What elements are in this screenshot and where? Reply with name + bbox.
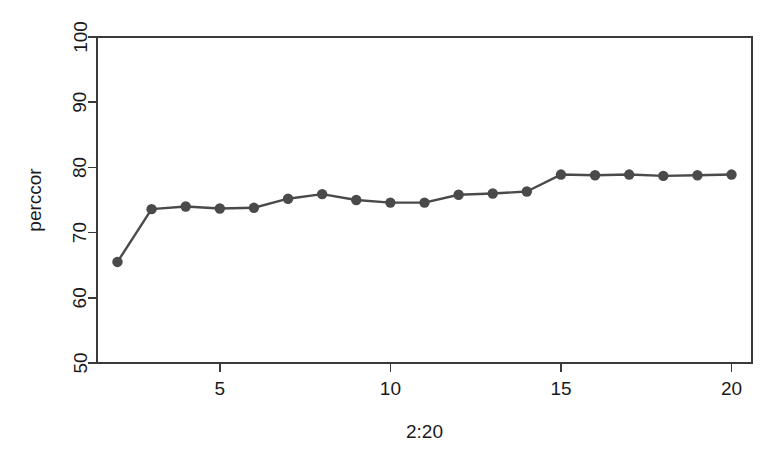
y-tick-label-80: 80 bbox=[70, 157, 91, 178]
data-point bbox=[112, 257, 122, 267]
data-points-perccor bbox=[112, 169, 736, 267]
data-point bbox=[351, 195, 361, 205]
chart-container: 5060708090100 5101520 perccor 2:20 bbox=[0, 0, 780, 464]
data-point bbox=[453, 190, 463, 200]
x-tick-label-10: 10 bbox=[380, 378, 401, 399]
data-point bbox=[181, 201, 191, 211]
data-point bbox=[658, 171, 668, 181]
x-axis-title: 2:20 bbox=[406, 421, 443, 442]
data-point bbox=[317, 189, 327, 199]
y-tick-label-70: 70 bbox=[70, 222, 91, 243]
line-chart: 5060708090100 5101520 perccor 2:20 bbox=[0, 0, 780, 464]
data-point bbox=[419, 197, 429, 207]
data-point bbox=[726, 169, 736, 179]
x-tick-label-15: 15 bbox=[550, 378, 571, 399]
x-tick-label-5: 5 bbox=[215, 378, 226, 399]
data-point bbox=[522, 186, 532, 196]
y-tick-label-90: 90 bbox=[70, 92, 91, 113]
data-point bbox=[146, 204, 156, 214]
data-point bbox=[283, 194, 293, 204]
data-point bbox=[556, 169, 566, 179]
data-line-perccor bbox=[117, 175, 731, 262]
data-point bbox=[488, 188, 498, 198]
x-axis-ticks bbox=[220, 363, 732, 372]
y-axis-ticks bbox=[88, 37, 97, 363]
y-axis-title: perccor bbox=[24, 168, 45, 232]
y-tick-label-50: 50 bbox=[70, 352, 91, 373]
data-point bbox=[249, 203, 259, 213]
x-axis-tick-labels: 5101520 bbox=[215, 378, 743, 399]
data-point bbox=[215, 203, 225, 213]
y-tick-label-60: 60 bbox=[70, 287, 91, 308]
data-point bbox=[692, 170, 702, 180]
data-point bbox=[624, 169, 634, 179]
y-axis-tick-labels: 5060708090100 bbox=[70, 21, 91, 373]
data-point bbox=[385, 197, 395, 207]
y-tick-label-100: 100 bbox=[70, 21, 91, 53]
x-tick-label-20: 20 bbox=[721, 378, 742, 399]
data-point bbox=[590, 170, 600, 180]
